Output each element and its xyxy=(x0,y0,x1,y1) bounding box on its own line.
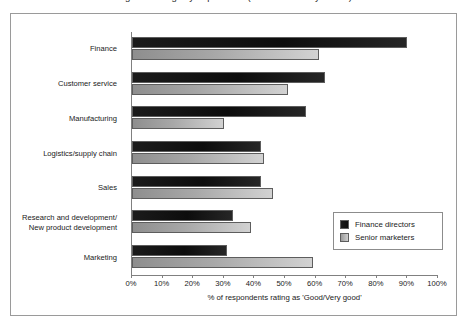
category-label-finance: Finance xyxy=(11,32,122,67)
x-tick xyxy=(192,275,193,278)
x-tick-label: 10% xyxy=(154,279,169,288)
x-tick-label: 80% xyxy=(368,279,383,288)
x-tick-label: 50% xyxy=(276,279,291,288)
bar-finance-directors xyxy=(132,176,261,187)
bar-senior-marketers xyxy=(132,188,273,199)
chart-legend: Finance directors Senior marketers xyxy=(333,212,443,250)
bar-finance-directors xyxy=(132,72,325,83)
x-tick-label: 90% xyxy=(399,279,414,288)
bar-senior-marketers xyxy=(132,118,224,129)
category-axis-labels: Finance Customer service Manufacturing L… xyxy=(11,32,122,275)
bar-senior-marketers xyxy=(132,84,288,95)
category-label-logistics-supply-chain: Logistics/supply chain xyxy=(11,136,122,171)
bar-senior-marketers xyxy=(132,153,264,164)
bar-group xyxy=(132,140,438,167)
x-tick xyxy=(131,275,132,278)
bar-finance-directors xyxy=(132,141,261,152)
x-tick-label: 30% xyxy=(215,279,230,288)
x-tick-label: 40% xyxy=(246,279,261,288)
x-tick xyxy=(253,275,254,278)
bar-finance-directors xyxy=(132,37,407,48)
bar-finance-directors xyxy=(132,210,233,221)
bar-group xyxy=(132,71,438,98)
bar-finance-directors xyxy=(132,245,227,256)
x-tick-label: 20% xyxy=(185,279,200,288)
category-label-customer-service: Customer service xyxy=(11,67,122,102)
bar-senior-marketers xyxy=(132,49,319,60)
x-tick xyxy=(345,275,346,278)
x-tick-label: 0% xyxy=(126,279,137,288)
legend-item-senior-marketers: Senior marketers xyxy=(340,231,435,244)
bar-senior-marketers xyxy=(132,257,313,268)
category-label-sales: Sales xyxy=(11,171,122,206)
bar-group xyxy=(132,36,438,63)
x-tick xyxy=(376,275,377,278)
clipped-title-strip: Figure: Ratings by department (descender… xyxy=(0,0,469,11)
legend-swatch-finance-directors xyxy=(340,220,349,229)
x-tick-label: 100% xyxy=(427,279,446,288)
legend-swatch-senior-marketers xyxy=(340,233,349,242)
x-tick xyxy=(223,275,224,278)
legend-label-senior-marketers: Senior marketers xyxy=(355,233,414,242)
x-tick xyxy=(437,275,438,278)
category-label-manufacturing: Manufacturing xyxy=(11,101,122,136)
category-label-research-and-development: Research and development/ New product de… xyxy=(11,206,122,241)
x-tick xyxy=(284,275,285,278)
bar-group xyxy=(132,175,438,202)
legend-item-finance-directors: Finance directors xyxy=(340,218,435,231)
plot-area: Finance Customer service Manufacturing L… xyxy=(11,14,456,315)
chart-frame: Finance Customer service Manufacturing L… xyxy=(10,13,457,316)
bar-group xyxy=(132,105,438,132)
x-tick-label: 70% xyxy=(338,279,353,288)
x-tick-label: 60% xyxy=(307,279,322,288)
x-axis-title: % of respondents rating as 'Good/Very go… xyxy=(131,293,438,302)
legend-label-finance-directors: Finance directors xyxy=(355,220,415,229)
x-tick xyxy=(162,275,163,278)
x-axis-tick-labels: 0%10%20%30%40%50%60%70%80%90%100% xyxy=(131,279,438,291)
category-label-marketing: Marketing xyxy=(11,240,122,275)
x-tick xyxy=(406,275,407,278)
x-tick xyxy=(315,275,316,278)
bar-senior-marketers xyxy=(132,222,251,233)
clipped-title-text: Figure: Ratings by department (descender… xyxy=(0,0,469,2)
bar-finance-directors xyxy=(132,106,306,117)
